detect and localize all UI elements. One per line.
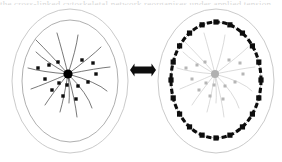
ring-node xyxy=(199,22,204,27)
network-node xyxy=(61,94,64,97)
network-node xyxy=(57,81,60,84)
spoke-line xyxy=(215,67,255,74)
hub-node xyxy=(211,70,219,78)
network-node xyxy=(204,61,207,64)
spoke-line xyxy=(68,67,110,74)
ring-node xyxy=(258,77,263,82)
ring-node xyxy=(240,124,245,129)
ring-node xyxy=(213,19,218,24)
ring-node xyxy=(213,135,218,140)
network-node xyxy=(224,85,227,88)
network-node xyxy=(50,88,53,91)
network-node xyxy=(213,84,216,87)
network-node xyxy=(222,98,225,101)
panels-group xyxy=(12,9,274,153)
network-node xyxy=(196,64,199,67)
network-node xyxy=(43,77,46,80)
network-node xyxy=(185,67,188,70)
network-node xyxy=(56,60,59,63)
network-transition-diagram xyxy=(0,0,282,162)
spoke-line xyxy=(68,47,101,74)
spoke-line xyxy=(207,74,215,112)
spoke-line xyxy=(183,40,215,74)
bidirectional-arrow-glyph xyxy=(130,64,156,77)
ring-node xyxy=(240,30,245,35)
network-node xyxy=(191,78,194,81)
network-node xyxy=(242,73,245,76)
network-node xyxy=(228,59,231,62)
cortical-ring xyxy=(171,22,261,138)
ring-node xyxy=(250,43,255,48)
ring-node xyxy=(227,133,232,138)
ring-node xyxy=(256,59,261,64)
spoke-line xyxy=(215,74,239,108)
spoke-line xyxy=(215,47,248,74)
ring-node xyxy=(250,111,255,116)
ring-node xyxy=(187,124,192,129)
network-node xyxy=(80,58,83,61)
ring-node xyxy=(177,111,182,116)
hub-node xyxy=(63,69,72,78)
ring-node xyxy=(199,133,204,138)
spoke-line xyxy=(60,74,68,112)
centralized-state-panel xyxy=(12,9,128,153)
network-node xyxy=(239,62,242,65)
ring-node xyxy=(177,43,182,48)
spoke-line xyxy=(36,40,68,74)
diagram-figure: the cross-linked cytoskeletal network re… xyxy=(0,0,282,162)
network-node xyxy=(76,84,79,87)
network-node xyxy=(234,81,237,84)
network-node xyxy=(74,97,77,100)
network-node xyxy=(198,89,201,92)
network-node xyxy=(86,80,89,83)
ring-node xyxy=(187,30,192,35)
spoke-line xyxy=(68,35,78,74)
spoke-line xyxy=(215,35,225,74)
network-node xyxy=(91,61,94,64)
network-node xyxy=(209,95,212,98)
network-node xyxy=(36,66,39,69)
cortical-ring-state-panel xyxy=(158,9,274,153)
network-node xyxy=(47,63,50,66)
network-node xyxy=(205,82,208,85)
spoke-line xyxy=(180,74,215,89)
ring-node xyxy=(171,95,176,100)
bidirectional-arrow xyxy=(130,64,156,77)
ring-node xyxy=(256,95,261,100)
spoke-line xyxy=(68,74,92,108)
network-node xyxy=(94,72,97,75)
ring-node xyxy=(168,77,173,82)
ring-node xyxy=(227,22,232,27)
network-node xyxy=(65,83,68,86)
ring-node xyxy=(171,59,176,64)
